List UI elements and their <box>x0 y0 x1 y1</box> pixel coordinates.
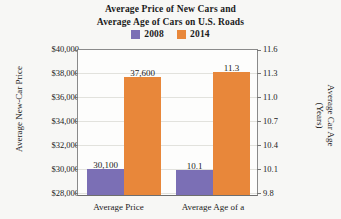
chart-title-line-1: Average Price of New Cars and <box>0 3 341 16</box>
plot-area: 30,100 37,600 10.1 11.3 <box>77 49 258 196</box>
bar-value-2008-average-age: 10.1 <box>172 161 217 171</box>
right-axis-tick-10-4: 10.4 <box>263 141 278 150</box>
tick-mark-left-7 <box>74 50 78 51</box>
right-axis-tick-10-1: 10.1 <box>263 165 278 174</box>
tick-mark-left-3 <box>74 145 78 146</box>
tick-mark-left-4 <box>74 121 78 122</box>
x-axis-label-average-age: Average Age of a <box>163 202 263 212</box>
chart-figure: Average Price of New Cars and Average Ag… <box>0 0 341 219</box>
tick-mark-right-3 <box>257 145 261 146</box>
tick-mark-right-2 <box>257 169 261 170</box>
tick-mark-right-7 <box>257 50 261 51</box>
legend-swatch-2008 <box>131 30 140 39</box>
bar-2008-average-age <box>176 170 213 195</box>
tick-mark-left-2 <box>74 169 78 170</box>
left-axis-title: Average New-Car Price <box>14 34 24 184</box>
bar-value-2014-average-age: 11.3 <box>209 63 254 73</box>
chart-title-line-2: Average Age of Cars on U.S. Roads <box>0 16 341 29</box>
bar-value-2014-average-price: 37,600 <box>118 68 167 78</box>
chart-legend: 2008 2014 <box>0 29 341 39</box>
tick-mark-right-1 <box>257 193 261 194</box>
tick-mark-right-5 <box>257 97 261 98</box>
right-axis-tick-11-3: 11.3 <box>263 69 278 78</box>
bar-2014-average-age <box>213 72 250 195</box>
legend-swatch-2014 <box>177 30 186 39</box>
right-axis-tick-11-6: 11.6 <box>263 45 278 54</box>
bar-value-2008-average-price: 30,100 <box>81 160 130 170</box>
tick-mark-left-6 <box>74 73 78 74</box>
legend-label-2008: 2008 <box>144 29 164 39</box>
right-axis-title-line-2: (Years) <box>315 41 326 191</box>
tick-mark-left-5 <box>74 97 78 98</box>
tick-mark-left-1 <box>74 193 78 194</box>
right-axis-title: Average Car Age (Years) <box>315 41 336 191</box>
tick-mark-right-6 <box>257 73 261 74</box>
x-axis-label-average-price: Average Price <box>77 202 160 212</box>
legend-item-2014: 2014 <box>177 29 210 39</box>
right-axis-title-line-1: Average Car Age <box>325 41 336 191</box>
bar-2008-average-price <box>87 169 124 195</box>
right-axis-tick-10-7: 10.7 <box>263 117 278 126</box>
tick-mark-right-4 <box>257 121 261 122</box>
right-axis-tick-11-0: 11.0 <box>263 93 278 102</box>
legend-item-2008: 2008 <box>131 29 164 39</box>
legend-label-2014: 2014 <box>190 29 210 39</box>
chart-title: Average Price of New Cars and Average Ag… <box>0 3 341 28</box>
bar-2014-average-price <box>124 77 161 195</box>
right-axis-tick-9-8: 9.8 <box>263 189 274 198</box>
